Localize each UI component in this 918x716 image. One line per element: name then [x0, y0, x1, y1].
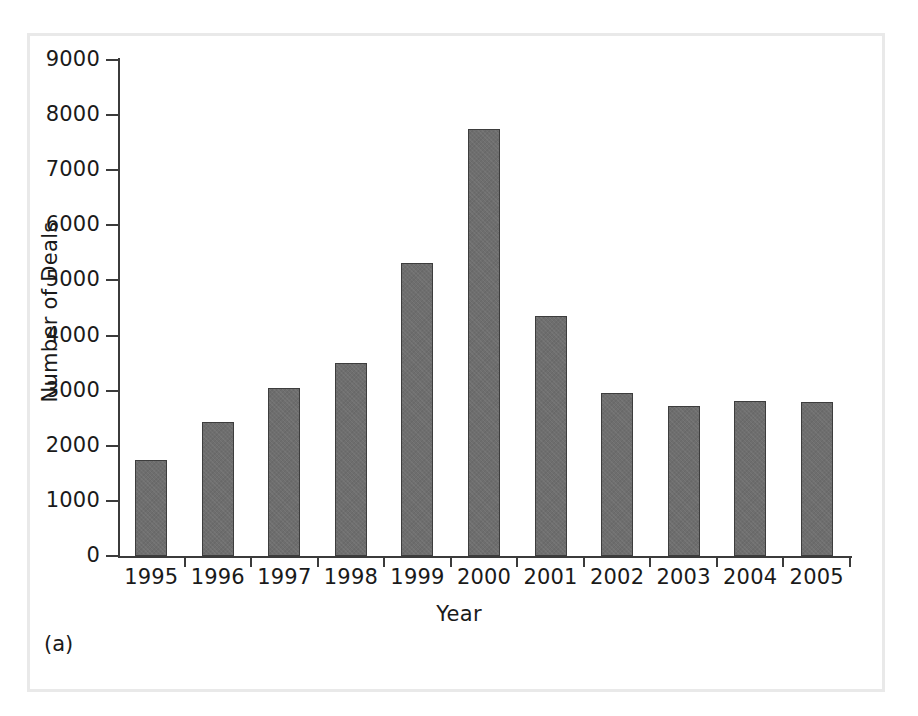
y-tick-mark: [106, 555, 118, 557]
y-tick-label-wrap: 1000: [0, 501, 100, 502]
y-tick-label-wrap: 2000: [0, 446, 100, 447]
bar: [335, 363, 367, 556]
y-tick-label-wrap: 9000: [0, 60, 100, 61]
x-tick-label: 2000: [451, 566, 517, 589]
x-tick-label: 1996: [185, 566, 251, 589]
bar: [535, 316, 567, 556]
bar: [268, 388, 300, 556]
y-tick-mark: [106, 224, 118, 226]
y-tick-label-wrap: 8000: [0, 115, 100, 116]
x-tick-label: 2002: [584, 566, 650, 589]
y-tick-mark: [106, 169, 118, 171]
y-tick-mark: [106, 500, 118, 502]
y-tick-mark: [106, 279, 118, 281]
y-tick-label: 1000: [8, 490, 100, 511]
x-tick-label: 1997: [251, 566, 317, 589]
bar: [668, 406, 700, 556]
y-tick-label: 0: [8, 545, 100, 566]
y-axis-title: Number of Deals: [38, 202, 62, 422]
y-tick-label: 9000: [8, 49, 100, 70]
x-tick-label: 2004: [717, 566, 783, 589]
y-axis-line: [118, 58, 120, 558]
y-tick-mark: [106, 114, 118, 116]
bar: [401, 263, 433, 556]
y-tick-label-wrap: 0: [0, 556, 100, 557]
y-tick-mark: [106, 59, 118, 61]
x-tick-label: 1995: [118, 566, 184, 589]
y-tick-label: 7000: [8, 159, 100, 180]
bar: [601, 393, 633, 556]
x-axis-line: [118, 556, 852, 558]
y-tick-mark: [106, 445, 118, 447]
bar: [468, 129, 500, 556]
bar: [135, 460, 167, 556]
x-tick-label: 2001: [518, 566, 584, 589]
y-tick-mark: [106, 335, 118, 337]
y-tick-label: 2000: [8, 435, 100, 456]
bar: [734, 401, 766, 556]
y-tick-mark: [106, 390, 118, 392]
x-axis-title: Year: [0, 602, 918, 626]
x-tick-label: 2003: [651, 566, 717, 589]
y-tick-label-wrap: 7000: [0, 170, 100, 171]
bar: [202, 422, 234, 556]
x-tick-label: 2005: [784, 566, 850, 589]
bar: [801, 402, 833, 556]
x-tick-label: 1999: [384, 566, 450, 589]
bar-chart: 9000800070006000500040003000200010000 19…: [0, 0, 918, 716]
panel-caption: (a): [44, 632, 73, 656]
y-tick-label: 8000: [8, 104, 100, 125]
x-tick-label: 1998: [318, 566, 384, 589]
